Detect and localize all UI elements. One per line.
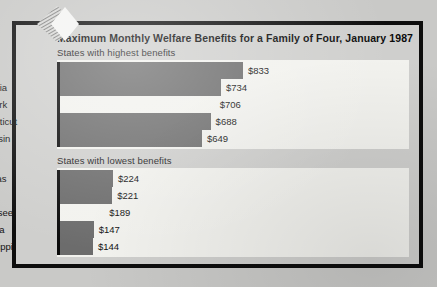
bar-value-label: $147 bbox=[99, 224, 120, 235]
bar-value-label: $189 bbox=[109, 207, 130, 218]
bar-value-label: $144 bbox=[98, 241, 119, 252]
bar bbox=[57, 130, 202, 147]
bar bbox=[57, 170, 113, 187]
bar-row: Arkansas$224 bbox=[57, 170, 409, 187]
chart-body: Maximum Monthly Welfare Benefits for a F… bbox=[16, 25, 419, 264]
bar-row: Alaska$833 bbox=[57, 62, 409, 79]
bar bbox=[57, 113, 211, 130]
bar bbox=[57, 62, 243, 79]
bar-row: Texas$221 bbox=[57, 187, 409, 204]
axis-baseline bbox=[57, 170, 60, 255]
bar-row: Wisconsin$649 bbox=[57, 130, 409, 147]
bar bbox=[57, 96, 215, 113]
bar-value-label: $734 bbox=[226, 82, 247, 93]
section-heading-lowest: States with lowest benefits bbox=[57, 155, 409, 166]
bar-value-label: $649 bbox=[207, 133, 228, 144]
bar bbox=[57, 79, 221, 96]
chart-title: Maximum Monthly Welfare Benefits for a F… bbox=[57, 32, 409, 44]
chart-section-highest: States with highest benefits Alaska$833C… bbox=[57, 47, 409, 149]
diamond-hatch-ornament bbox=[31, 2, 91, 46]
bar-category-label: Wisconsin bbox=[0, 133, 57, 144]
bar-category-label: California bbox=[0, 82, 57, 93]
bar-category-label: Tennessee bbox=[0, 207, 57, 218]
bar bbox=[57, 238, 93, 255]
bar-value-label: $833 bbox=[248, 65, 269, 76]
plot-panel-highest: Alaska$833California$734New York$706Conn… bbox=[57, 60, 409, 149]
bar-row: Mississippi$144 bbox=[57, 238, 409, 255]
bar bbox=[57, 221, 94, 238]
bar-value-label: $224 bbox=[118, 173, 139, 184]
bar-row: Tennessee$189 bbox=[57, 204, 409, 221]
bar-category-label: Arkansas bbox=[0, 173, 57, 184]
bar-row: Connecticut$688 bbox=[57, 113, 409, 130]
section-heading-highest: States with highest benefits bbox=[57, 47, 409, 58]
plot-panel-lowest: Arkansas$224Texas$221Tennessee$189Alabam… bbox=[57, 168, 409, 257]
bar-value-label: $706 bbox=[220, 99, 241, 110]
bar-category-label: Texas bbox=[0, 190, 57, 201]
bar bbox=[57, 204, 104, 221]
bar-row: California$734 bbox=[57, 79, 409, 96]
bar-row: New York$706 bbox=[57, 96, 409, 113]
bar bbox=[57, 187, 112, 204]
bar-value-label: $688 bbox=[216, 116, 237, 127]
bar-row: Alabama$147 bbox=[57, 221, 409, 238]
bar-value-label: $221 bbox=[117, 190, 138, 201]
axis-baseline bbox=[57, 62, 60, 147]
bar-category-label: Alaska bbox=[0, 65, 57, 76]
chart-section-lowest: States with lowest benefits Arkansas$224… bbox=[57, 155, 409, 257]
bar-category-label: New York bbox=[0, 99, 57, 110]
bar-category-label: Alabama bbox=[0, 224, 57, 235]
bar-category-label: Connecticut bbox=[0, 116, 57, 127]
bar-category-label: Mississippi bbox=[0, 241, 57, 252]
